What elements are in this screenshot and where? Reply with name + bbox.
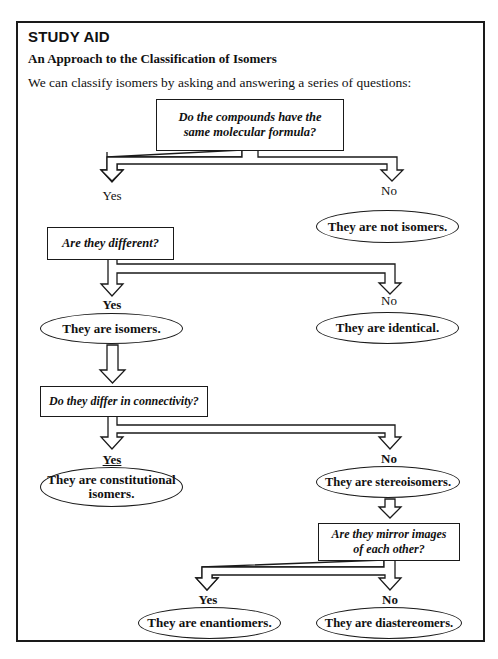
outcome-enantiomers: They are enantiomers.	[138, 607, 281, 639]
label-no-4: No	[382, 592, 398, 608]
label-yes-2: Yes	[103, 297, 122, 313]
label-yes-3: Yes	[103, 452, 122, 468]
label-yes-1: Yes	[103, 188, 122, 204]
label-no-3: No	[381, 451, 397, 467]
outcome-stereoisomers: They are stereoisomers.	[316, 466, 460, 498]
label-no-1: No	[381, 183, 397, 199]
outcome-isomers: They are isomers.	[40, 313, 183, 344]
question-differ-connectivity: Do they differ in connectivity?	[40, 386, 208, 417]
outcome-constitutional: They are constitutional isomers.	[40, 467, 183, 507]
question-are-different: Are they different?	[47, 227, 174, 260]
fork-arrow-q1	[101, 150, 242, 182]
question-same-formula: Do the compounds have the same molecular…	[156, 99, 344, 151]
outcome-not-isomers: They are not isomers.	[316, 210, 459, 243]
label-yes-4: Yes	[199, 592, 218, 608]
label-no-2: No	[381, 293, 397, 309]
question-mirror-images: Are they mirror images of each other?	[318, 523, 460, 561]
outcome-diastereomers: They are diastereomers.	[316, 607, 462, 639]
outcome-identical: They are identical.	[316, 312, 459, 344]
